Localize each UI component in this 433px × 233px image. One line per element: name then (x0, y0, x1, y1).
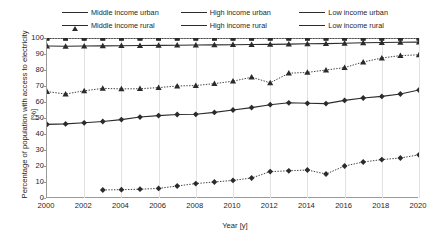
legend-marker-square-dotted-icon (181, 21, 207, 30)
legend-item-middle-income-urban: Middle income urban (62, 8, 181, 17)
data-point-marker-diamond (305, 167, 311, 173)
y-tick-label: 50 (18, 113, 44, 122)
x-tick-label: 2012 (249, 201, 289, 210)
y-tick-label: 60 (18, 97, 44, 106)
chart-figure: Middle income urban High income urban Lo… (0, 0, 433, 233)
data-point-marker-diamond (267, 102, 273, 108)
data-point-marker-triangle (360, 59, 366, 65)
data-point-marker-diamond (305, 100, 311, 106)
legend-label: Middle income rural (91, 22, 155, 30)
data-point-marker-diamond (100, 119, 106, 125)
data-point-marker-diamond (193, 111, 199, 117)
legend-label: High income rural (210, 22, 267, 30)
data-point-marker-square (138, 38, 143, 41)
x-tick-label: 2014 (286, 201, 326, 210)
x-axis-title: Year [y] (45, 221, 425, 230)
y-tick-mark (42, 182, 46, 183)
y-tick-mark (42, 150, 46, 151)
data-point-marker-square (175, 38, 180, 41)
y-tick-label: 30 (18, 145, 44, 154)
legend-marker-triangle-solid-icon (62, 8, 88, 17)
gridline-vertical (419, 38, 420, 198)
data-point-marker-square (156, 38, 161, 41)
data-point-marker-diamond (286, 168, 292, 174)
data-point-marker-square (268, 38, 273, 41)
y-tick-mark (42, 70, 46, 71)
y-tick-mark (42, 38, 46, 39)
legend-item-high-income-rural: High income rural (181, 21, 300, 30)
series-line (103, 155, 419, 190)
data-point-marker-square (212, 38, 217, 41)
data-point-marker-diamond (360, 159, 366, 165)
data-point-marker-square (417, 38, 419, 41)
data-point-marker-diamond (137, 114, 143, 120)
data-point-marker-diamond (137, 186, 143, 192)
data-point-marker-diamond (342, 98, 348, 104)
data-point-marker-triangle (156, 85, 162, 91)
legend-item-low-income-rural: Low income rural (299, 21, 418, 30)
legend-item-middle-income-rural: Middle income rural (62, 21, 181, 30)
data-point-marker-diamond (249, 105, 255, 111)
data-point-marker-diamond (230, 178, 236, 184)
data-point-marker-diamond (249, 175, 255, 181)
legend-marker-diamond-dotted-icon (299, 21, 325, 30)
series-canvas (47, 38, 419, 198)
x-tick-label: 2020 (398, 201, 433, 210)
x-tick-label: 2010 (212, 201, 252, 210)
data-point-marker-square (47, 38, 49, 41)
legend-marker-triangle-dotted-icon (62, 21, 88, 30)
data-point-marker-diamond (47, 122, 50, 128)
data-point-marker-diamond (379, 157, 385, 163)
plot-area (46, 38, 418, 198)
y-tick-mark (42, 166, 46, 167)
x-tick-label: 2006 (138, 201, 178, 210)
legend-item-low-income-urban: Low income urban (299, 8, 418, 17)
data-point-marker-diamond (286, 100, 292, 106)
data-point-marker-square (193, 38, 198, 41)
data-point-marker-square (361, 38, 366, 41)
data-point-marker-square (249, 38, 254, 41)
data-point-marker-square (286, 38, 291, 41)
data-point-marker-diamond (360, 95, 366, 101)
data-point-marker-diamond (119, 117, 125, 123)
x-tick-label: 2008 (175, 201, 215, 210)
x-tick-label: 2002 (63, 201, 103, 210)
data-point-marker-diamond (212, 179, 218, 185)
data-point-marker-diamond (230, 107, 236, 113)
y-tick-label: 70 (18, 81, 44, 90)
data-point-marker-square (342, 38, 347, 41)
legend-marker-square-solid-icon (181, 8, 207, 17)
legend-item-high-income-urban: High income urban (181, 8, 300, 17)
data-point-marker-diamond (156, 186, 162, 192)
data-point-marker-diamond (416, 87, 419, 93)
y-axis-tick-labels: 1009080706050403020100 (12, 0, 44, 233)
y-tick-mark (42, 54, 46, 55)
data-point-marker-diamond (100, 187, 106, 193)
legend-marker-diamond-solid-icon (299, 8, 325, 17)
y-tick-label: 10 (18, 177, 44, 186)
chart-legend: Middle income urban High income urban Lo… (62, 6, 418, 32)
data-point-marker-diamond (212, 110, 218, 116)
data-point-marker-triangle (211, 81, 217, 87)
data-point-marker-triangle (342, 65, 348, 71)
data-point-marker-diamond (398, 155, 404, 161)
data-point-marker-diamond (63, 121, 69, 127)
data-point-marker-square (324, 38, 329, 41)
x-tick-label: 2000 (26, 201, 66, 210)
x-tick-label: 2004 (100, 201, 140, 210)
y-tick-label: 90 (18, 49, 44, 58)
data-point-marker-diamond (267, 169, 273, 175)
data-point-marker-diamond (193, 181, 199, 187)
data-point-marker-square (305, 38, 310, 41)
data-point-marker-triangle (267, 80, 273, 86)
data-point-marker-diamond (323, 101, 329, 107)
y-tick-label: 100 (18, 33, 44, 42)
data-point-marker-diamond (342, 163, 348, 169)
data-point-marker-square (100, 38, 105, 41)
y-tick-mark (42, 134, 46, 135)
data-point-marker-triangle (230, 78, 236, 84)
legend-label: Middle income urban (91, 9, 159, 17)
data-point-marker-diamond (398, 91, 404, 97)
data-point-marker-triangle (100, 85, 106, 91)
data-point-marker-square (82, 38, 87, 41)
